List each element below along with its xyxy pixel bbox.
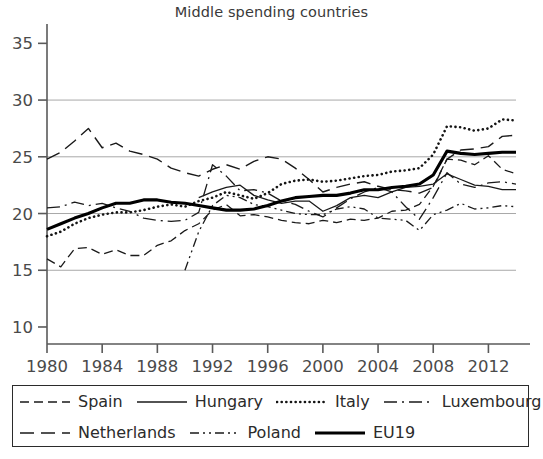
legend-label-eu19: EU19 bbox=[373, 423, 415, 442]
legend-item-eu19[interactable]: EU19 bbox=[314, 423, 428, 442]
legend-swatch-italy bbox=[276, 395, 328, 409]
legend-item-netherlands[interactable]: Netherlands bbox=[19, 423, 189, 442]
svg-text:15: 15 bbox=[12, 261, 33, 280]
legend-item-italy[interactable]: Italy bbox=[276, 392, 383, 411]
svg-text:30: 30 bbox=[12, 91, 33, 110]
legend-label-luxembourg: Luxembourg bbox=[442, 392, 542, 411]
chart-figure: Middle spending countries 101520253035 1… bbox=[0, 0, 543, 459]
legend-item-poland[interactable]: Poland bbox=[189, 423, 314, 442]
line-chart-plot: 101520253035 198019841988199219962000200… bbox=[0, 0, 543, 385]
svg-text:2012: 2012 bbox=[467, 357, 509, 376]
legend-label-poland: Poland bbox=[248, 423, 301, 442]
y-axis-ticks: 101520253035 bbox=[12, 34, 47, 337]
legend-swatch-hungary bbox=[136, 395, 188, 409]
series-line-italy bbox=[47, 119, 516, 236]
legend-label-netherlands: Netherlands bbox=[78, 423, 176, 442]
legend-swatch-poland bbox=[189, 426, 241, 440]
data-series bbox=[47, 119, 516, 270]
svg-text:2004: 2004 bbox=[357, 357, 399, 376]
axis-lines bbox=[47, 24, 530, 344]
x-axis-ticks: 198019841988199219962000200420082012 bbox=[26, 344, 509, 376]
legend-label-hungary: Hungary bbox=[195, 392, 263, 411]
svg-text:1988: 1988 bbox=[136, 357, 178, 376]
legend-label-italy: Italy bbox=[335, 392, 370, 411]
legend-row-2: NetherlandsPolandEU19 bbox=[13, 417, 528, 448]
svg-text:1992: 1992 bbox=[192, 357, 234, 376]
legend-item-spain[interactable]: Spain bbox=[19, 392, 136, 411]
chart-legend: SpainHungaryItalyLuxembourg NetherlandsP… bbox=[12, 385, 529, 447]
series-line-poland bbox=[185, 195, 516, 270]
legend-swatch-luxembourg bbox=[383, 395, 435, 409]
svg-text:1980: 1980 bbox=[26, 357, 68, 376]
legend-row-1: SpainHungaryItalyLuxembourg bbox=[13, 386, 528, 417]
legend-swatch-eu19 bbox=[314, 426, 366, 440]
legend-item-hungary[interactable]: Hungary bbox=[136, 392, 276, 411]
legend-item-luxembourg[interactable]: Luxembourg bbox=[383, 392, 543, 411]
svg-text:1984: 1984 bbox=[81, 357, 123, 376]
legend-swatch-netherlands bbox=[19, 426, 71, 440]
svg-text:35: 35 bbox=[12, 34, 33, 53]
svg-text:20: 20 bbox=[12, 205, 33, 224]
svg-text:25: 25 bbox=[12, 148, 33, 167]
svg-text:2000: 2000 bbox=[302, 357, 344, 376]
legend-label-spain: Spain bbox=[78, 392, 123, 411]
svg-text:1996: 1996 bbox=[247, 357, 289, 376]
svg-text:2008: 2008 bbox=[412, 357, 454, 376]
svg-text:10: 10 bbox=[12, 318, 33, 337]
legend-swatch-spain bbox=[19, 395, 71, 409]
